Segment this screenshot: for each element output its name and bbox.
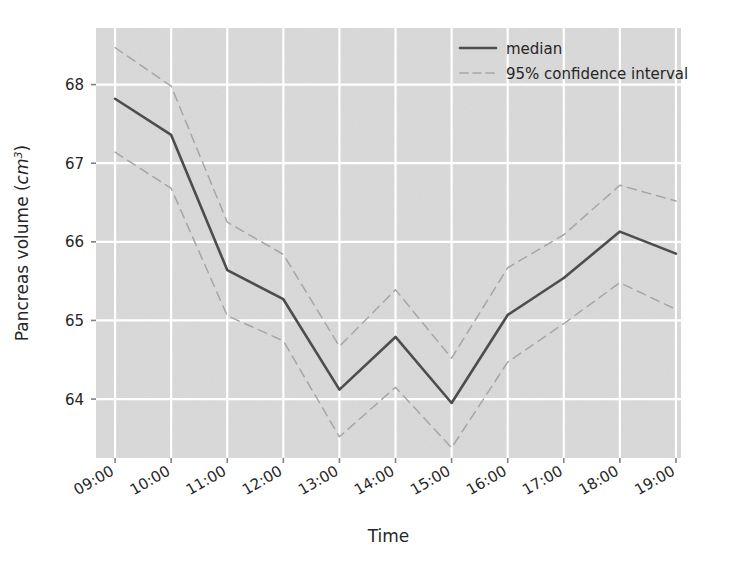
x-axis: 09:0010:0011:0012:0013:0014:0015:0016:00… xyxy=(71,458,678,499)
y-tick-label: 67 xyxy=(65,155,84,173)
x-tick-label: 16:00 xyxy=(463,462,509,499)
x-tick-label: 13:00 xyxy=(295,462,341,499)
legend-label: median xyxy=(506,40,562,58)
x-tick-label: 11:00 xyxy=(183,462,229,499)
y-tick-label: 68 xyxy=(65,76,84,94)
x-tick-label: 19:00 xyxy=(632,462,678,499)
y-tick-label: 66 xyxy=(65,233,84,251)
chart-figure: 646566676809:0010:0011:0012:0013:0014:00… xyxy=(0,0,738,562)
legend-label: 95% confidence interval xyxy=(506,65,688,83)
x-tick-label: 14:00 xyxy=(351,462,397,499)
legend: median95% confidence interval xyxy=(452,34,688,86)
x-tick-label: 15:00 xyxy=(407,462,453,499)
x-tick-label: 09:00 xyxy=(71,462,117,499)
y-axis-title: Pancreas volume (cm3) xyxy=(12,145,33,341)
x-axis-title: Time xyxy=(367,526,410,546)
y-tick-label: 64 xyxy=(65,391,84,409)
x-tick-label: 17:00 xyxy=(519,462,565,499)
x-tick-label: 18:00 xyxy=(575,462,621,499)
y-axis: 6465666768 xyxy=(65,76,96,408)
x-tick-label: 10:00 xyxy=(127,462,173,499)
x-tick-label: 12:00 xyxy=(239,462,285,499)
pancreas-volume-line-chart: 646566676809:0010:0011:0012:0013:0014:00… xyxy=(0,0,738,562)
y-tick-label: 65 xyxy=(65,312,84,330)
